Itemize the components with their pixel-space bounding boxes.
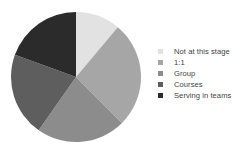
legend-item-label: Courses <box>174 79 203 90</box>
legend-item-label: Group <box>174 68 195 79</box>
legend-swatch-icon <box>158 82 163 87</box>
legend-item-label: 1:1 <box>174 57 185 68</box>
legend-swatch-icon <box>158 71 163 76</box>
pie-chart-svg <box>0 0 152 156</box>
legend-item[interactable]: 1:1 <box>156 57 242 68</box>
pie-chart <box>0 0 152 156</box>
legend-item-label: Not at this stage <box>174 46 230 57</box>
legend-item[interactable]: Courses <box>156 79 242 90</box>
legend-swatch-icon <box>158 49 163 54</box>
legend-item[interactable]: Group <box>156 68 242 79</box>
legend-item[interactable]: Not at this stage <box>156 46 242 57</box>
legend-item-label: Serving in teams <box>174 90 231 101</box>
legend-swatch-icon <box>158 93 163 98</box>
chart-legend: Not at this stage 1:1 Group Courses Serv… <box>156 46 242 101</box>
legend-swatch-icon <box>158 60 163 65</box>
legend-item[interactable]: Serving in teams <box>156 90 242 101</box>
pie-slice-group <box>11 12 141 142</box>
pie-chart-screenshot: Not at this stage 1:1 Group Courses Serv… <box>0 0 242 156</box>
